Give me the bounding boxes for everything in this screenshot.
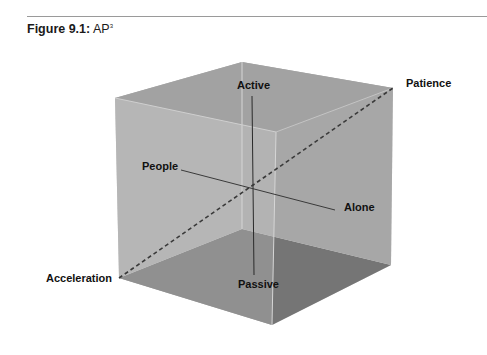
cube-diagram: Active Patience People Alone Acceleratio… bbox=[0, 0, 487, 355]
label-passive: Passive bbox=[238, 278, 279, 290]
label-alone: Alone bbox=[344, 201, 375, 213]
label-people: People bbox=[142, 160, 178, 172]
label-acceleration: Acceleration bbox=[46, 272, 112, 284]
label-active: Active bbox=[237, 79, 270, 91]
label-patience: Patience bbox=[406, 77, 451, 89]
cube-front-left-face bbox=[115, 98, 276, 325]
